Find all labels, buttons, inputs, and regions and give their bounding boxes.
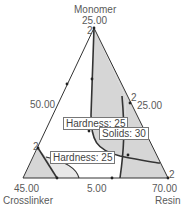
vertex-bottom-left-name: Crosslinker	[3, 195, 53, 206]
vertex-bottom-left-value: 45.00	[14, 183, 39, 194]
vertex-bottom-right-name: Resin	[155, 195, 181, 206]
point-marker: 2	[169, 169, 175, 180]
point-marker: 2	[87, 25, 93, 36]
right-edge-label: 25.00	[137, 100, 162, 111]
vertex-bottom-right-value: 70.00	[152, 183, 177, 194]
left-edge-label: 50.00	[30, 99, 55, 110]
point-marker: 2	[33, 141, 39, 152]
contour-label-solids: Solids: 30	[99, 127, 149, 140]
contour-label-hardness-lower: Hardness: 25	[50, 151, 115, 164]
vertex-top-value: 25.00	[82, 15, 107, 26]
vertex-top-name: Monomer	[74, 4, 116, 15]
point-marker: 2	[131, 92, 137, 103]
bottom-edge-label: 5.00	[87, 183, 106, 194]
